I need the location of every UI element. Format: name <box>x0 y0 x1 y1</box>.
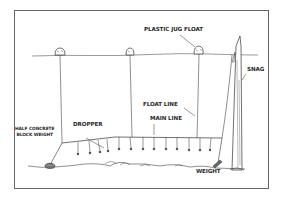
label-snag: SNAG <box>247 66 264 72</box>
label-float-line: FLOAT LINE <box>143 101 178 107</box>
anchor-line <box>50 143 62 165</box>
diagram-frame <box>15 11 269 189</box>
label-plastic-jug-float: PLASTIC JUG FLOAT <box>144 26 203 32</box>
float-line-1 <box>60 55 62 143</box>
plastic-jug-float-1 <box>55 48 65 55</box>
label-weight: WEIGHT <box>196 168 221 174</box>
droppers <box>77 137 211 155</box>
label-main-line: MAIN LINE <box>150 115 182 121</box>
plastic-jug-float-3 <box>194 46 203 54</box>
trotline-diagram <box>0 0 283 197</box>
label-half-concrete-block-weight: HALF CONCRETE BLOCK WEIGHT <box>15 126 54 138</box>
label-dropper: DROPPER <box>73 121 102 127</box>
weight <box>213 160 222 168</box>
weight-anchor-line <box>218 138 222 163</box>
water-surface-line <box>32 54 258 56</box>
snag-pointer-arrow <box>242 74 246 80</box>
float-line-pointer-arrow <box>184 108 195 116</box>
float-line-3 <box>197 54 199 138</box>
float-line-2 <box>130 55 132 137</box>
plastic-jug-float-2 <box>126 48 134 55</box>
label-block-weight-line2: BLOCK WEIGHT <box>15 132 54 138</box>
float-line-snag <box>222 55 232 138</box>
main-line <box>62 137 222 143</box>
float-pointer-arrow <box>180 35 195 47</box>
half-concrete-block-weight <box>45 163 55 169</box>
